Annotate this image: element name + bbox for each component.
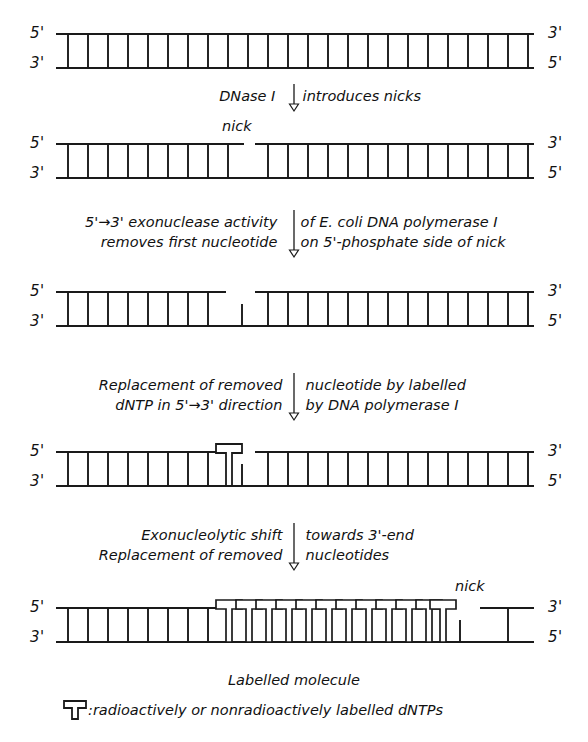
row2-left-top-label: 5' bbox=[30, 134, 45, 152]
step-shift-line2-left: Replacement of removed bbox=[92, 545, 282, 565]
duplex-ladder-3 bbox=[56, 288, 534, 332]
step-exonucleolytic-shift-annotation: Exonucleolytic shift towards 3'-end Repl… bbox=[0, 525, 588, 565]
row5-nick-label: nick bbox=[455, 578, 485, 594]
step-exonuclease-line2-right: on 5'-phosphate side of nick bbox=[301, 232, 539, 252]
row3-right-bottom-label: 5' bbox=[548, 312, 563, 330]
row2-left-bottom-label: 3' bbox=[30, 164, 45, 182]
row3-left-bottom-label: 3' bbox=[30, 312, 45, 330]
row2-nick-label: nick bbox=[222, 118, 252, 134]
row2-right-bottom-label: 5' bbox=[548, 164, 563, 182]
row5-right-top-label: 3' bbox=[548, 598, 563, 616]
step-exonuclease-line1-right: of E. coli DNA polymerase I bbox=[301, 212, 539, 232]
row2-right-top-label: 3' bbox=[548, 134, 563, 152]
row1-right-bottom-label: 5' bbox=[548, 54, 563, 72]
row5-left-bottom-label: 3' bbox=[30, 628, 45, 646]
legend-text: :radioactively or nonradioactively label… bbox=[88, 702, 443, 718]
duplex-ladder-1 bbox=[56, 30, 534, 74]
row4-right-top-label: 3' bbox=[548, 442, 563, 460]
row3-right-top-label: 3' bbox=[548, 282, 563, 300]
row1-right-top-label: 3' bbox=[548, 24, 563, 42]
row5-left-top-label: 5' bbox=[30, 598, 45, 616]
step-replacement-line1-left: Replacement of removed bbox=[68, 375, 282, 395]
step-replacement-line2-left: dNTP in 5'→3' direction bbox=[68, 395, 282, 415]
step-replacement-line1-right: nucleotide by labelled bbox=[306, 375, 520, 395]
row4-left-bottom-label: 3' bbox=[30, 472, 45, 490]
row1-left-bottom-label: 3' bbox=[30, 54, 45, 72]
step-exonuclease-line1-left: 5'→3' exonuclease activity bbox=[49, 212, 277, 232]
step-dnase-line1-left: DNase I bbox=[105, 86, 275, 106]
step-exonuclease-annotation: 5'→3' exonuclease activity of E. coli DN… bbox=[0, 212, 588, 252]
row1-left-top-label: 5' bbox=[30, 24, 45, 42]
figure-canvas: 5' 3' 3' 5' DNase I bbox=[0, 0, 588, 742]
duplex-ladder-4 bbox=[56, 448, 534, 492]
step-shift-line1-right: towards 3'-end bbox=[306, 525, 496, 545]
labelled-dntp-symbol bbox=[216, 444, 242, 486]
labelled-dntp-legend-icon bbox=[63, 700, 87, 720]
row4-right-bottom-label: 5' bbox=[548, 472, 563, 490]
row3-left-top-label: 5' bbox=[30, 282, 45, 300]
step-replacement-annotation: Replacement of removed nucleotide by lab… bbox=[0, 375, 588, 415]
step-shift-line2-right: nucleotides bbox=[306, 545, 496, 565]
step-dnase-line1-right: introduces nicks bbox=[303, 86, 483, 106]
row4-left-top-label: 5' bbox=[30, 442, 45, 460]
step-shift-line1-left: Exonucleolytic shift bbox=[92, 525, 282, 545]
figure-caption: Labelled molecule bbox=[0, 672, 588, 688]
step-replacement-line2-right: by DNA polymerase I bbox=[306, 395, 520, 415]
row5-right-bottom-label: 5' bbox=[548, 628, 563, 646]
duplex-ladder-5 bbox=[56, 604, 534, 648]
labelled-dntp-run bbox=[216, 600, 456, 642]
step-exonuclease-line2-left: removes first nucleotide bbox=[49, 232, 277, 252]
duplex-ladder-2 bbox=[56, 140, 534, 184]
step-dnase-annotation: DNase I introduces nicks bbox=[0, 86, 588, 106]
